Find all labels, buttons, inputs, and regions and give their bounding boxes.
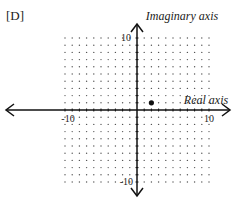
- data-points: [149, 100, 154, 105]
- complex-plane-chart: Imaginary axis Real axis -10 10 10 -10: [0, 0, 238, 200]
- x-axis-label: Real axis: [183, 93, 229, 107]
- y-tick-max: 10: [121, 32, 131, 43]
- x-tick-min: -10: [61, 113, 74, 124]
- data-point: [149, 100, 154, 105]
- x-tick-max: 10: [204, 113, 214, 124]
- y-tick-min: -10: [120, 176, 133, 187]
- y-axis-label: Imaginary axis: [145, 9, 219, 23]
